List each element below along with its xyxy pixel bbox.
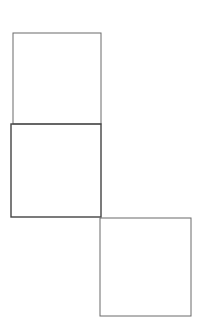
middle-square bbox=[11, 124, 101, 217]
diagram-canvas bbox=[0, 0, 203, 331]
bottom-right-square bbox=[100, 218, 191, 316]
top-square bbox=[13, 33, 101, 124]
